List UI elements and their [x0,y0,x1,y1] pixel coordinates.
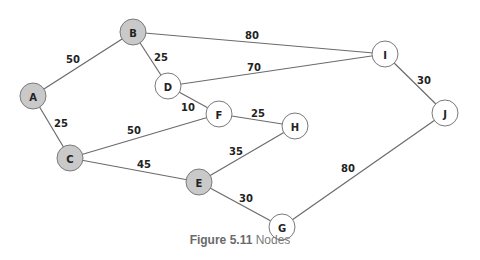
node-E: E [186,169,212,195]
node-I: I [372,41,398,67]
node-label: B [129,28,137,39]
node-C: C [57,145,83,171]
edge-C-F [70,114,219,158]
edge-weight-A-B: 50 [66,54,80,65]
node-label: A [29,92,37,103]
node-label: I [383,50,387,61]
node-F: F [206,101,232,127]
figure-number: Figure 5.11 [190,233,253,247]
edge-weight-C-E: 45 [137,159,151,170]
figure-caption: Figure 5.11 Nodes [0,233,480,247]
node-J: J [432,100,458,126]
edge-weight-E-G: 30 [239,193,253,204]
edge-weight-C-F: 50 [127,125,141,136]
edge-weight-F-H: 25 [251,108,265,119]
edge-D-I [168,54,385,86]
edge-weight-D-I: 70 [247,62,261,73]
node-label: F [216,110,223,121]
node-label: H [291,122,299,133]
edge-E-H [199,126,295,182]
node-A: A [20,83,46,109]
node-D: D [155,73,181,99]
node-label: E [196,178,203,189]
node-H: H [282,113,308,139]
edge-weight-B-I: 80 [245,30,259,41]
edge-weight-B-D: 25 [154,52,168,63]
edge-weight-J-G: 80 [341,163,355,174]
edge-B-I [133,32,385,54]
node-label: D [164,82,172,93]
graph-figure: 50252580701025504535303080 ABCDEFGHIJ Fi… [0,0,480,260]
node-label: C [66,154,73,165]
graph-canvas: 50252580701025504535303080 ABCDEFGHIJ [0,0,480,260]
edge-weight-D-F: 10 [181,102,195,113]
edge-E-G [199,182,282,227]
figure-title: Nodes [256,233,291,247]
edge-A-B [33,32,133,96]
node-B: B [120,19,146,45]
edge-weight-E-H: 35 [229,146,243,157]
node-label: G [278,223,286,234]
node-label: J [442,109,447,120]
nodes-layer: ABCDEFGHIJ [20,19,458,240]
edge-C-E [70,158,199,182]
edge-weight-I-J: 30 [417,75,431,86]
edge-weight-A-C: 25 [54,118,68,129]
